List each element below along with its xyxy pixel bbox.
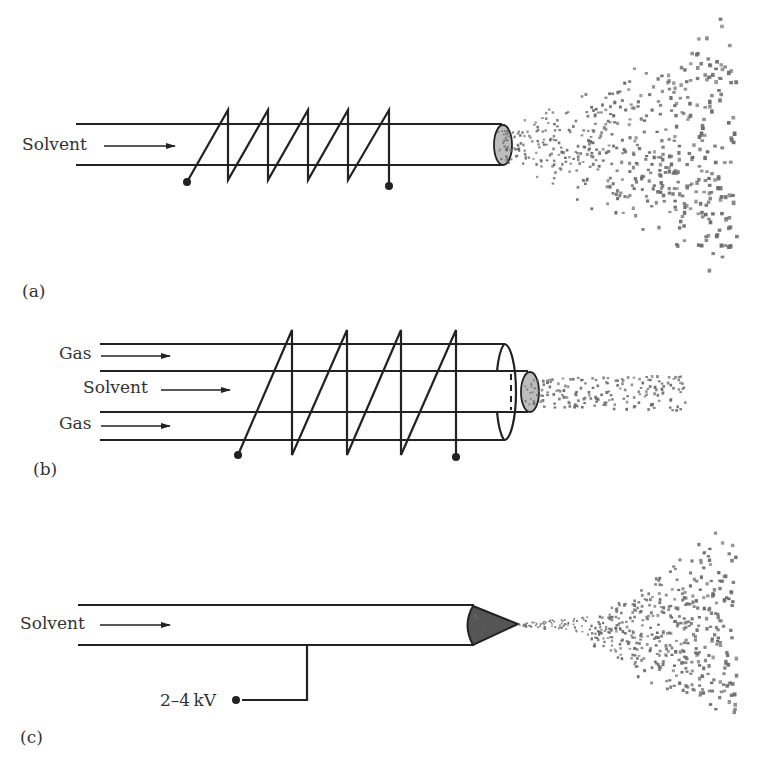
- panel-c: Solvent 2–4 kV (c): [20, 532, 738, 747]
- voltage-terminal-dot: [232, 696, 240, 704]
- panel-label-a: (a): [22, 281, 45, 301]
- capillary-outlet: [521, 372, 539, 412]
- droplet-spray-wide: [497, 18, 739, 273]
- heater-coil: [187, 110, 389, 185]
- outer-tube-end: [504, 344, 516, 440]
- spray-diagram: Solvent (a) Gas Solvent Gas (b): [0, 0, 769, 774]
- coil-terminal-dot: [183, 178, 191, 186]
- coil-terminal-dot: [385, 182, 393, 190]
- outer-tube-end-back: [497, 412, 504, 440]
- droplet-spray-narrow: [524, 375, 686, 412]
- panel-label-c: (c): [20, 727, 43, 747]
- gas-label-top: Gas: [59, 343, 91, 363]
- taylor-cone: [468, 606, 519, 645]
- heater-coil: [238, 330, 456, 457]
- coil-terminal-dot: [234, 451, 242, 459]
- outer-tube-end-back: [497, 344, 504, 371]
- panel-label-b: (b): [33, 459, 57, 479]
- gas-label-bottom: Gas: [59, 413, 91, 433]
- solvent-label: Solvent: [20, 613, 85, 633]
- solvent-label: Solvent: [83, 377, 148, 397]
- panel-b: Gas Solvent Gas (b): [33, 330, 687, 479]
- solvent-label: Solvent: [22, 134, 87, 154]
- coil-terminal-dot: [452, 453, 460, 461]
- panel-a: Solvent (a): [22, 18, 739, 301]
- voltage-lead: [242, 646, 307, 700]
- voltage-label: 2–4 kV: [160, 690, 217, 710]
